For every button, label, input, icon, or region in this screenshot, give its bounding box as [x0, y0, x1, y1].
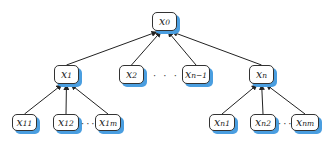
- node-subscript: n2: [261, 119, 271, 128]
- node-subscript: nm: [302, 119, 314, 128]
- tree-node-x0: x0: [152, 12, 177, 31]
- node-subscript: n−1: [191, 71, 207, 80]
- tree-node-xn2: xn2: [250, 114, 276, 131]
- edge-x11-to-x1: [25, 85, 62, 114]
- tree-node-x2: x2: [119, 65, 144, 84]
- edge-xnm-to-xn: [267, 85, 305, 114]
- tree-node-xn: xn: [249, 65, 274, 84]
- tree-node-x1: x1: [54, 65, 79, 84]
- node-subscript: 12: [64, 119, 74, 128]
- ellipsis: · · ·: [153, 70, 179, 81]
- node-subscript: 11: [23, 119, 33, 128]
- tree-node-x11: x11: [12, 114, 37, 131]
- ellipsis: ···: [278, 118, 294, 129]
- node-subscript: 0: [165, 18, 170, 27]
- tree-node-xnm: xnm: [291, 114, 319, 131]
- edge-x1-to-x0: [67, 32, 157, 65]
- node-subscript: 2: [132, 71, 137, 80]
- node-subscript: n: [262, 71, 267, 80]
- node-subscript: 1: [67, 71, 72, 80]
- edge-xn2-to-xn: [262, 85, 263, 114]
- tree-node-xn1: xn1: [209, 114, 235, 131]
- edge-xn1-to-xn: [222, 85, 257, 114]
- tree-node-xn-1: xn−1: [182, 65, 210, 84]
- ellipsis: ···: [81, 118, 97, 129]
- tree-node-x12: x12: [53, 114, 79, 131]
- node-subscript: n1: [220, 119, 230, 128]
- edge-xn-to-x0: [173, 32, 262, 65]
- edge-x2-to-x0: [132, 32, 161, 65]
- edge-xn-1-to-x0: [168, 32, 196, 65]
- edge-x1m-to-x1: [71, 85, 108, 114]
- tree-node-x1m: x1m: [95, 114, 121, 131]
- node-subscript: 1m: [105, 119, 117, 128]
